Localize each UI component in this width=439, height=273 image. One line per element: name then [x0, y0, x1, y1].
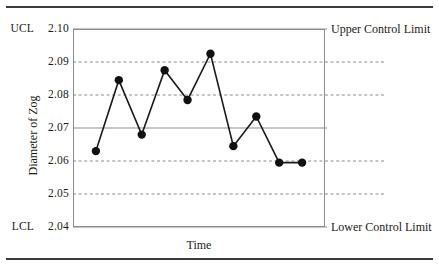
upper-control-limit-annotation: Upper Control Limit — [331, 23, 430, 35]
x-axis-title: Time — [73, 238, 325, 253]
y-axis-title-wrapper: Diameter of Zog — [18, 18, 38, 238]
lower-control-limit-annotation: Lower Control Limit — [331, 221, 432, 233]
control-chart-figure: 2.10 2.09 2.08 2.07 2.06 2.05 2.04 UCL L… — [0, 0, 439, 273]
y-axis-title: Diameter of Zog — [26, 76, 41, 196]
